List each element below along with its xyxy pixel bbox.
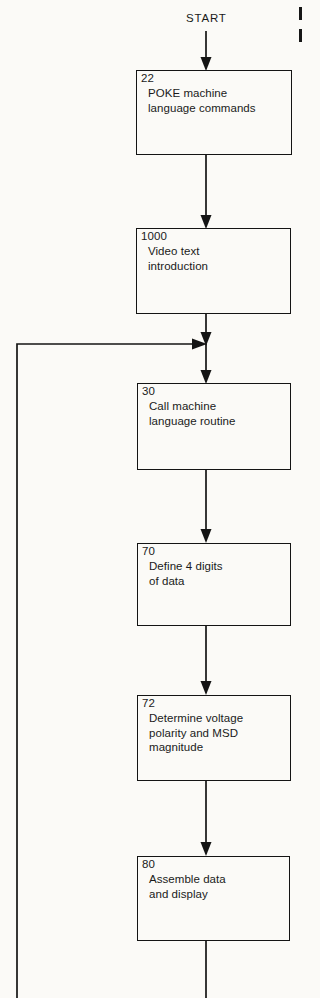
process-node-1000[interactable]: 1000 Video text introduction bbox=[136, 228, 291, 314]
flowchart-page: START 22 POKE machine language commands … bbox=[0, 0, 320, 998]
start-label: START bbox=[186, 12, 227, 24]
process-node-70-step: 70 bbox=[142, 545, 155, 558]
connector-72-to-80 bbox=[201, 781, 212, 856]
process-node-22-step: 22 bbox=[141, 72, 154, 85]
process-node-80-text: Assemble data and display bbox=[149, 872, 226, 901]
connector-merge-to-30 bbox=[201, 344, 212, 384]
process-node-70-text: Define 4 digits of data bbox=[149, 559, 223, 588]
process-node-1000-text: Video text introduction bbox=[148, 244, 208, 273]
process-node-22-text: POKE machine language commands bbox=[148, 86, 256, 115]
process-node-30-step: 30 bbox=[142, 385, 155, 398]
connector-22-to-1000 bbox=[201, 155, 212, 229]
process-node-1000-step: 1000 bbox=[141, 230, 167, 243]
process-node-72[interactable]: 72 Determine voltage polarity and MSD ma… bbox=[137, 695, 291, 781]
process-node-72-text: Determine voltage polarity and MSD magni… bbox=[149, 711, 243, 755]
process-node-30[interactable]: 30 Call machine language routine bbox=[137, 383, 291, 470]
process-node-72-step: 72 bbox=[142, 697, 155, 710]
process-node-22[interactable]: 22 POKE machine language commands bbox=[136, 70, 292, 155]
connector-1000-to-merge bbox=[201, 314, 212, 346]
process-node-30-text: Call machine language routine bbox=[149, 399, 235, 428]
process-node-80-step: 80 bbox=[142, 858, 155, 871]
connector-30-to-70 bbox=[201, 470, 212, 543]
process-node-70[interactable]: 70 Define 4 digits of data bbox=[137, 543, 291, 626]
connector-70-to-72 bbox=[201, 626, 212, 695]
connector-start-to-22 bbox=[201, 31, 212, 71]
page-edge-mark-lower bbox=[299, 29, 302, 42]
process-node-80[interactable]: 80 Assemble data and display bbox=[137, 856, 290, 941]
page-edge-mark-upper bbox=[299, 7, 302, 20]
